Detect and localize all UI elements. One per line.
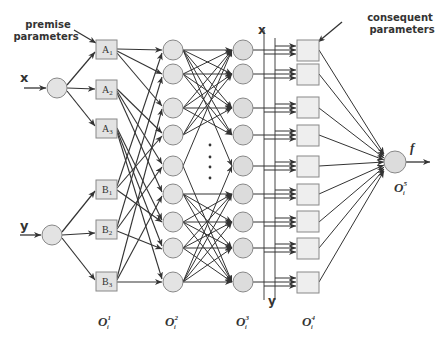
input-node-x bbox=[47, 78, 67, 98]
layer-labels: O1i O2i O3i O4i O5i bbox=[98, 180, 407, 330]
svg-text:premise: premise bbox=[25, 19, 71, 30]
layer4-to-output-edges bbox=[319, 50, 384, 282]
layer3-nodes bbox=[233, 40, 253, 292]
layer4-nodes bbox=[297, 40, 319, 293]
input-node-y bbox=[42, 225, 62, 245]
svg-text:O1i: O1i bbox=[98, 314, 111, 330]
layer1-to-layer2-edges bbox=[117, 49, 162, 282]
bus-x-label: x bbox=[258, 23, 266, 37]
layer3-to-layer4-edges bbox=[264, 30, 275, 300]
svg-text:consequent: consequent bbox=[367, 12, 433, 23]
svg-text:parameters: parameters bbox=[13, 31, 78, 42]
svg-text:O3i: O3i bbox=[236, 314, 249, 330]
layer2-nodes bbox=[163, 40, 183, 292]
premise-parameters-label: premise parameters bbox=[13, 19, 96, 43]
output-f-label: f bbox=[410, 140, 416, 155]
output-node bbox=[384, 151, 406, 173]
svg-text:O2i: O2i bbox=[165, 314, 178, 330]
svg-text:O4i: O4i bbox=[302, 314, 315, 330]
input-x-label: x bbox=[20, 70, 29, 85]
layer2-to-layer3-edges bbox=[183, 50, 232, 282]
consequent-parameters-label: consequent parameters bbox=[318, 12, 435, 42]
input-y-label: y bbox=[20, 218, 29, 233]
ellipsis-dots bbox=[209, 144, 212, 180]
svg-text:parameters: parameters bbox=[369, 24, 434, 35]
layer1-nodes: A1 A2 A3 B1 B2 B3 bbox=[96, 40, 117, 291]
svg-text:O5i: O5i bbox=[394, 180, 407, 196]
bus-y-label: y bbox=[268, 294, 276, 308]
anfis-diagram: premise parameters consequent parameters… bbox=[0, 0, 446, 339]
